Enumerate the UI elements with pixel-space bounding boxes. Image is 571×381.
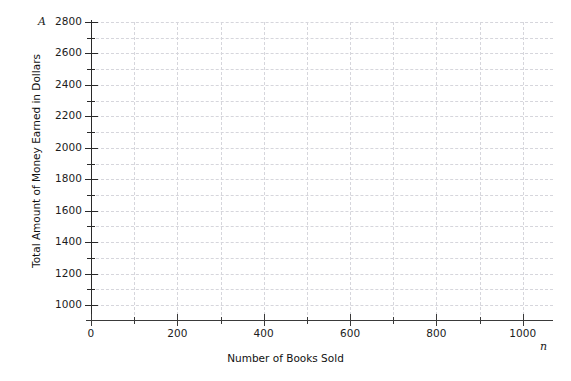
x-tick-minor [134,317,135,324]
y-axis-title: Total Amount of Money Earned in Dollars [30,46,42,276]
x-tick-major [350,314,351,326]
y-tick-label: 1400 [42,235,82,247]
gridline-vertical [436,22,437,320]
chart-screen: 1000120014001600180020002200240026002800… [0,0,571,381]
x-tick-label: 400 [234,327,294,339]
gridline-horizontal [91,132,553,133]
x-tick-label: 1000 [493,327,553,339]
gridline-horizontal [91,258,553,259]
x-tick-label: 600 [320,327,380,339]
y-tick-minor [87,226,95,227]
x-axis-title: Number of Books Sold [0,352,571,364]
gridline-vertical [221,22,222,320]
gridline-vertical [134,22,135,320]
y-tick-major [85,274,98,275]
gridline-horizontal [91,211,553,212]
y-tick-label: 1000 [42,298,82,310]
x-tick-major [523,314,524,326]
y-axis-variable-symbol: A [38,15,46,28]
y-tick-major [85,85,98,86]
gridline-horizontal [91,116,553,117]
x-tick-minor [393,317,394,324]
gridline-horizontal [91,289,553,290]
y-tick-label: 2200 [42,109,82,121]
gridline-horizontal [91,38,553,39]
gridline-horizontal [91,226,553,227]
y-tick-minor [87,101,95,102]
x-tick-minor [221,317,222,324]
plot-area [91,22,553,320]
x-tick-label: 200 [147,327,207,339]
x-tick-minor [307,317,308,324]
y-tick-major [85,305,98,306]
y-tick-label: 2400 [42,78,82,90]
y-tick-minor [87,164,95,165]
y-tick-major [85,116,98,117]
gridline-horizontal [91,164,553,165]
y-tick-label: 2600 [42,46,82,58]
y-tick-label: 2800 [42,15,82,27]
x-tick-minor [480,317,481,324]
gridline-vertical [264,22,265,320]
gridline-horizontal [91,242,553,243]
y-tick-major [85,53,98,54]
x-tick-label: 0 [61,327,121,339]
y-tick-minor [87,69,95,70]
gridline-horizontal [91,85,553,86]
gridline-horizontal [91,148,553,149]
gridline-vertical [350,22,351,320]
gridline-horizontal [91,179,553,180]
gridline-vertical [307,22,308,320]
y-tick-label: 1800 [42,172,82,184]
x-tick-major [177,314,178,326]
gridline-vertical [523,22,524,320]
y-tick-minor [87,132,95,133]
y-tick-major [85,211,98,212]
y-tick-major [85,179,98,180]
gridline-horizontal [91,195,553,196]
gridline-horizontal [91,22,553,23]
gridline-horizontal [91,274,553,275]
x-axis-line [86,320,553,321]
x-tick-major [264,314,265,326]
y-tick-major [85,242,98,243]
y-tick-minor [87,258,95,259]
y-tick-label: 1600 [42,204,82,216]
gridline-horizontal [91,69,553,70]
y-tick-label: 1200 [42,267,82,279]
y-tick-minor [87,289,95,290]
x-tick-label: 800 [406,327,466,339]
y-tick-minor [87,195,95,196]
x-tick-major [436,314,437,326]
y-tick-major [85,22,98,23]
x-tick-major [91,314,92,326]
gridline-vertical [393,22,394,320]
gridline-horizontal [91,101,553,102]
gridline-horizontal [91,305,553,306]
gridline-horizontal [91,53,553,54]
y-tick-label: 2000 [42,141,82,153]
gridline-vertical [177,22,178,320]
gridline-vertical [480,22,481,320]
y-axis-line [91,20,92,325]
y-tick-major [85,148,98,149]
y-tick-minor [87,38,95,39]
